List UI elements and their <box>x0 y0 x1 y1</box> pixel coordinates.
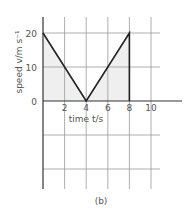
x-tick-label: 6 <box>105 103 111 113</box>
x-tick-label: 8 <box>127 103 133 113</box>
x-tick-label: 10 <box>145 103 157 113</box>
y-tick-label: 20 <box>26 29 38 39</box>
y-tick-label: 0 <box>31 97 37 107</box>
x-axis-label: time t/s <box>69 114 104 124</box>
x-tick-label: 2 <box>62 103 68 113</box>
figure-label: (b) <box>95 196 108 206</box>
y-axis-label: speed v/m s⁻¹ <box>14 30 24 93</box>
grid <box>43 17 160 189</box>
x-tick-label: 4 <box>83 103 89 113</box>
speed-time-chart: 24681001020 time t/s speed v/m s⁻¹ (b) <box>0 0 192 218</box>
y-tick-label: 10 <box>26 63 38 73</box>
